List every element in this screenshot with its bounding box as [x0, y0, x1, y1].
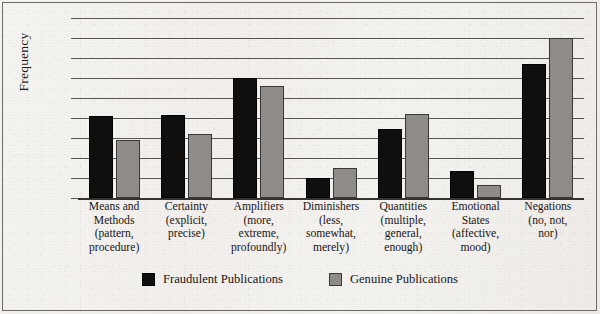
- bar-genuine: [116, 140, 140, 198]
- category-label-line: (no, not,: [506, 214, 590, 228]
- bar-fraudulent: [306, 178, 330, 198]
- bar-genuine: [188, 134, 212, 198]
- y-axis-tick-mark: [71, 18, 78, 19]
- gridline: [78, 98, 584, 99]
- legend-label-genuine: Genuine Publications: [350, 272, 458, 287]
- bar-fraudulent: [450, 171, 474, 198]
- y-axis-tick-mark: [71, 198, 78, 199]
- plot-area: 020040060080010001200140016001800: [78, 18, 584, 198]
- category-label-line: mood): [433, 241, 517, 255]
- gridline: [78, 38, 584, 39]
- chart-legend: Fraudulent Publications Genuine Publicat…: [0, 272, 600, 287]
- category-label-line: procedure): [72, 241, 156, 255]
- gridline: [78, 158, 584, 159]
- bar-genuine: [549, 38, 573, 198]
- bar-genuine: [477, 185, 501, 198]
- y-axis-tick-mark: [71, 58, 78, 59]
- y-axis-tick-mark: [71, 118, 78, 119]
- x-axis-category-labels: Means andMethods(pattern,procedure)Certa…: [78, 200, 584, 266]
- legend-label-fraudulent: Fraudulent Publications: [163, 272, 283, 287]
- bar-genuine: [333, 168, 357, 198]
- bar-fraudulent: [378, 129, 402, 198]
- gridline: [78, 78, 584, 79]
- category-label-line: Negations: [506, 200, 590, 214]
- bar-fraudulent: [522, 64, 546, 198]
- bar-fraudulent: [89, 116, 113, 198]
- bar-fraudulent: [233, 78, 257, 198]
- y-axis-tick-mark: [71, 78, 78, 79]
- gridline: [78, 18, 584, 19]
- y-axis-tick-mark: [71, 98, 78, 99]
- y-axis-tick-mark: [71, 158, 78, 159]
- y-axis-title: Frequency: [16, 2, 32, 122]
- legend-item-genuine: Genuine Publications: [329, 272, 458, 287]
- bar-fraudulent: [161, 115, 185, 198]
- bar-genuine: [260, 86, 284, 198]
- bar-genuine: [405, 114, 429, 198]
- y-axis-tick-mark: [71, 38, 78, 39]
- gray-square-swatch-icon: [329, 273, 342, 286]
- gridline: [78, 118, 584, 119]
- category-label-line: nor): [506, 227, 590, 241]
- x-axis-category-label: Negations(no, not,nor): [506, 200, 590, 241]
- gridline: [78, 138, 584, 139]
- figure-container: Frequency 020040060080010001200140016001…: [0, 0, 600, 314]
- y-axis-tick-mark: [71, 178, 78, 179]
- y-axis-tick-mark: [71, 138, 78, 139]
- gridline: [78, 178, 584, 179]
- gridline: [78, 58, 584, 59]
- black-square-swatch-icon: [142, 273, 155, 286]
- legend-item-fraudulent: Fraudulent Publications: [142, 272, 283, 287]
